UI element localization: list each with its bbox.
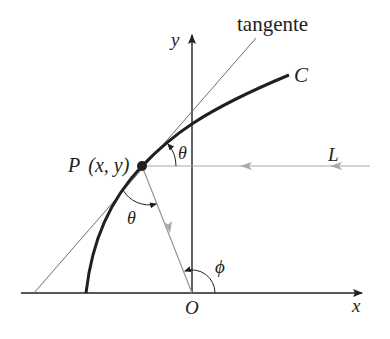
tangent-label: tangente [237, 12, 308, 36]
x-axis-label: x [351, 295, 361, 316]
theta-lower-label: θ [127, 208, 136, 228]
point-P [137, 161, 147, 171]
y-axis-label: y [169, 29, 180, 50]
point-P-label: P (x, y) [67, 154, 130, 177]
theta-upper-arc [168, 144, 176, 166]
phi-arc [185, 270, 215, 293]
theta-upper-label: θ [178, 143, 187, 163]
reflection-diagram: tangente C y x O L θ θ ϕ P (x, y) [0, 0, 390, 339]
phi-label: ϕ [215, 256, 225, 277]
point-P-coords: (x, y) [88, 154, 129, 177]
curve-C [86, 75, 289, 293]
reflected-ray [142, 166, 192, 293]
origin-label: O [185, 297, 199, 318]
point-P-name: P [67, 154, 80, 176]
theta-lower-arc [123, 190, 156, 205]
curve-label: C [294, 63, 309, 87]
line-L-label: L [327, 144, 339, 165]
